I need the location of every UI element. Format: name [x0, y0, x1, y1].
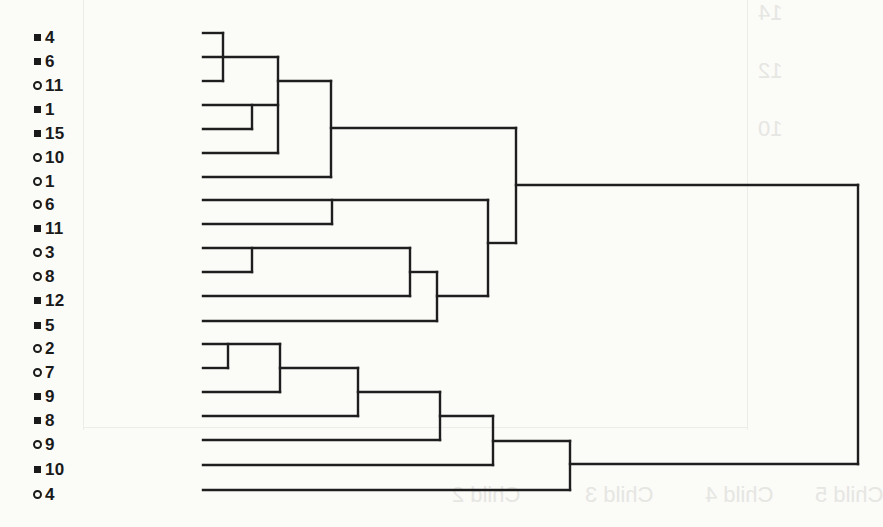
open-circle-icon	[33, 344, 42, 353]
leaf-label: 9	[33, 436, 55, 453]
open-circle-icon	[33, 177, 42, 186]
filled-square-icon	[34, 225, 41, 232]
leaf-label: 3	[33, 244, 55, 261]
leaf-label: 10	[33, 461, 64, 478]
filled-square-icon	[34, 106, 41, 113]
open-circle-icon	[33, 368, 42, 377]
leaf-label: 6	[33, 53, 55, 70]
open-circle-icon	[33, 490, 42, 499]
leaf-label-column: 46111151016113812527989104	[0, 0, 200, 527]
leaf-number: 11	[45, 220, 63, 237]
leaf-label: 5	[33, 317, 55, 334]
leaf-number: 10	[45, 461, 64, 478]
leaf-number: 11	[45, 77, 63, 94]
leaf-number: 9	[45, 436, 55, 453]
open-circle-icon	[33, 272, 42, 281]
leaf-number: 9	[45, 388, 55, 405]
filled-square-icon	[34, 466, 41, 473]
leaf-number: 10	[45, 149, 64, 166]
open-circle-icon	[33, 440, 42, 449]
leaf-label: 12	[33, 292, 64, 309]
leaf-label: 1	[33, 173, 55, 190]
filled-square-icon	[34, 58, 41, 65]
leaf-number: 8	[45, 268, 55, 285]
leaf-number: 12	[45, 292, 64, 309]
leaf-label: 11	[33, 77, 63, 94]
leaf-label: 6	[33, 196, 55, 213]
open-circle-icon	[33, 81, 42, 90]
leaf-label: 7	[33, 364, 55, 381]
filled-square-icon	[34, 417, 41, 424]
open-circle-icon	[33, 200, 42, 209]
leaf-label: 1	[33, 101, 55, 118]
leaf-number: 4	[45, 486, 55, 503]
leaf-number: 6	[45, 196, 55, 213]
open-circle-icon	[33, 153, 42, 162]
leaf-number: 1	[45, 173, 55, 190]
leaf-label: 4	[33, 29, 55, 46]
leaf-number: 1	[45, 101, 55, 118]
leaf-number: 3	[45, 244, 55, 261]
leaf-label: 15	[33, 125, 64, 142]
leaf-label: 4	[33, 486, 55, 503]
leaf-number: 5	[45, 317, 55, 334]
leaf-label: 8	[33, 268, 55, 285]
filled-square-icon	[34, 393, 41, 400]
leaf-label: 2	[33, 340, 55, 357]
leaf-label: 9	[33, 388, 55, 405]
leaf-number: 4	[45, 29, 55, 46]
leaf-label: 11	[33, 220, 63, 237]
filled-square-icon	[34, 322, 41, 329]
leaf-number: 8	[45, 412, 55, 429]
filled-square-icon	[34, 130, 41, 137]
open-circle-icon	[33, 248, 42, 257]
leaf-label: 10	[33, 149, 64, 166]
leaf-label: 8	[33, 412, 55, 429]
filled-square-icon	[34, 34, 41, 41]
leaf-number: 2	[45, 340, 55, 357]
filled-square-icon	[34, 297, 41, 304]
leaf-number: 15	[45, 125, 64, 142]
leaf-number: 7	[45, 364, 55, 381]
leaf-number: 6	[45, 53, 55, 70]
